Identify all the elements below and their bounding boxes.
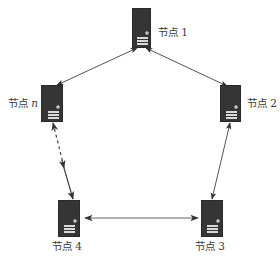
power-button-icon	[234, 105, 238, 109]
ring-network-diagram: 节点 1 节点 n 节点 2	[0, 0, 280, 260]
power-button-icon	[56, 105, 60, 109]
power-button-icon	[73, 219, 77, 223]
server-icon	[132, 8, 151, 48]
server-icon	[58, 200, 80, 237]
node-4-label: 节点 4	[52, 240, 82, 252]
node-1-label: 节点 1	[158, 26, 188, 38]
server-icon	[220, 85, 241, 122]
node-2-label: 节点 2	[247, 97, 277, 109]
power-button-icon	[216, 219, 220, 223]
server-icon	[201, 200, 223, 237]
edge-node1-noden	[57, 48, 137, 85]
power-button-icon	[145, 31, 149, 35]
edge-noden-node4	[53, 123, 73, 199]
node-n-label: 节点 n	[8, 97, 38, 109]
edge-node2-node3	[212, 123, 230, 199]
server-icon	[41, 85, 63, 122]
node-3-label: 节点 3	[195, 240, 225, 252]
edge-node1-node2	[146, 48, 227, 86]
